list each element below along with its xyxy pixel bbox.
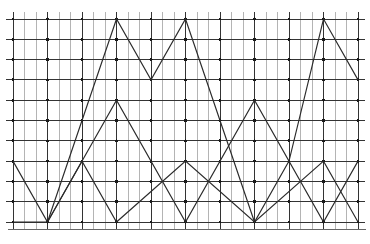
- grid-intersection-dot: [218, 38, 221, 41]
- grid-intersection-dot: [322, 58, 325, 61]
- figure-root: [0, 0, 370, 244]
- grid-intersection-dot: [184, 58, 187, 61]
- grid-intersection-dot: [253, 180, 256, 183]
- grid-intersection-dot: [46, 139, 49, 142]
- grid-intersection-dot: [322, 139, 325, 142]
- grid-intersection-dot: [322, 99, 325, 102]
- grid-intersection-dot: [80, 180, 83, 183]
- grid-intersection-dot: [356, 38, 359, 41]
- grid-intersection-dot: [218, 139, 221, 142]
- grid-intersection-dot: [80, 38, 83, 41]
- grid-intersection-dot: [80, 220, 83, 223]
- grid-intersection-dot: [149, 119, 152, 122]
- grid-intersection-dot: [287, 139, 290, 142]
- grid-intersection-dot: [46, 17, 49, 20]
- grid-intersection-dot: [218, 180, 221, 183]
- grid-intersection-dot: [149, 139, 152, 142]
- grid-intersection-dot: [218, 220, 221, 223]
- grid-intersection-dot: [184, 38, 187, 41]
- grid-intersection-dot: [287, 220, 290, 223]
- grid-intersection-dot: [115, 139, 118, 142]
- grid-intersection-dot: [115, 78, 118, 81]
- grid-intersection-dot: [11, 180, 14, 183]
- grid-intersection-dot: [218, 58, 221, 61]
- grid-intersection-dot: [322, 119, 325, 122]
- grid-intersection-dot: [80, 200, 83, 203]
- grid-intersection-dot: [184, 180, 187, 183]
- grid-intersection-dot: [218, 200, 221, 203]
- grid-intersection-dot: [80, 58, 83, 61]
- grid-intersection-dot: [287, 99, 290, 102]
- grid-intersection-dot: [46, 99, 49, 102]
- grid-intersection-dot: [253, 58, 256, 61]
- grid-intersection-dot: [253, 17, 256, 20]
- grid-intersection-dot: [253, 200, 256, 203]
- grid-intersection-dot: [149, 200, 152, 203]
- grid-intersection-dot: [11, 119, 14, 122]
- grid-intersection-dot: [149, 180, 152, 183]
- grid-intersection-dot: [356, 17, 359, 20]
- grid-intersection-dot: [287, 119, 290, 122]
- grid-intersection-dot: [218, 99, 221, 102]
- grid-intersection-dot: [184, 99, 187, 102]
- grid-intersection-dot: [184, 139, 187, 142]
- grid-intersection-dot: [149, 99, 152, 102]
- grid-intersection-dot: [322, 200, 325, 203]
- grid-intersection-dot: [115, 200, 118, 203]
- grid-intersection-dot: [218, 78, 221, 81]
- grid-intersection-dot: [356, 200, 359, 203]
- grid-intersection-dot: [184, 119, 187, 122]
- grid-intersection-dot: [11, 139, 14, 142]
- grid-intersection-dot: [11, 58, 14, 61]
- grid-intersection-dot: [356, 99, 359, 102]
- grid-intersection-dot: [11, 38, 14, 41]
- grid-intersection-dot: [322, 180, 325, 183]
- grid-intersection-dot: [115, 119, 118, 122]
- grid-intersection-dot: [46, 119, 49, 122]
- grid-intersection-dot: [149, 17, 152, 20]
- grid-intersection-dot: [149, 220, 152, 223]
- grid-intersection-dot: [46, 38, 49, 41]
- grid-intersection-dot: [184, 200, 187, 203]
- grid-intersection-dot: [287, 38, 290, 41]
- grid-intersection-dot: [46, 180, 49, 183]
- grid-intersection-dot: [322, 38, 325, 41]
- grid-intersection-dot: [287, 180, 290, 183]
- grid-intersection-dot: [287, 58, 290, 61]
- grid-intersection-dot: [184, 78, 187, 81]
- grid-intersection-dot: [46, 78, 49, 81]
- grid-intersection-dot: [115, 58, 118, 61]
- grid-intersection-dot: [80, 139, 83, 142]
- grid-intersection-dot: [115, 160, 118, 163]
- grid-intersection-dot: [253, 38, 256, 41]
- grid-intersection-dot: [253, 119, 256, 122]
- grid-intersection-dot: [80, 17, 83, 20]
- grid-intersection-dot: [253, 139, 256, 142]
- grid-intersection-dot: [322, 78, 325, 81]
- grid-intersection-dot: [356, 139, 359, 142]
- grid-intersection-dot: [356, 119, 359, 122]
- grid-intersection-dot: [11, 200, 14, 203]
- grid-intersection-dot: [115, 38, 118, 41]
- grid-intersection-dot: [149, 58, 152, 61]
- grid-intersection-dot: [80, 78, 83, 81]
- grid-intersection-dot: [356, 58, 359, 61]
- grid-intersection-dot: [11, 78, 14, 81]
- grid-intersection-dot: [356, 180, 359, 183]
- grid-intersection-dot: [253, 160, 256, 163]
- grid-intersection-dot: [149, 38, 152, 41]
- grid-intersection-dot: [287, 78, 290, 81]
- grid-waveform-chart: [0, 0, 370, 244]
- grid-intersection-dot: [46, 58, 49, 61]
- grid-intersection-dot: [115, 180, 118, 183]
- grid-intersection-dot: [11, 99, 14, 102]
- grid-intersection-dot: [218, 17, 221, 20]
- grid-intersection-dot: [11, 17, 14, 20]
- grid-intersection-dot: [287, 17, 290, 20]
- grid-intersection-dot: [46, 160, 49, 163]
- grid-intersection-dot: [80, 99, 83, 102]
- grid-intersection-dot: [287, 200, 290, 203]
- grid-intersection-dot: [46, 200, 49, 203]
- grid-intersection-dot: [253, 78, 256, 81]
